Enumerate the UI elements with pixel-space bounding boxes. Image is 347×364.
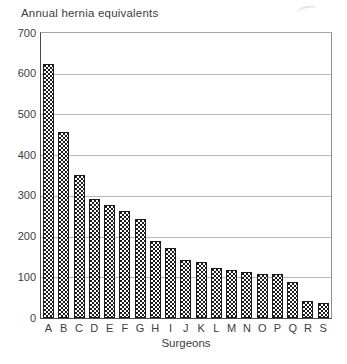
bar-J (180, 260, 191, 318)
x-tick-label-O: O (254, 322, 270, 335)
bar-C (74, 175, 85, 318)
x-tick-label-A: A (41, 322, 57, 335)
y-tick-label-500: 500 (4, 108, 36, 121)
x-tick-label-L: L (208, 322, 224, 335)
y-tick-label-200: 200 (4, 230, 36, 243)
x-tick-label-E: E (102, 322, 118, 335)
bar-I (165, 248, 176, 318)
x-tick-label-H: H (147, 322, 163, 335)
x-tick-label-P: P (269, 322, 285, 335)
bar-O (257, 274, 268, 318)
y-tick-label-100: 100 (4, 271, 36, 284)
x-tick-label-J: J (178, 322, 194, 335)
x-tick-label-D: D (86, 322, 102, 335)
x-tick-label-S: S (315, 322, 331, 335)
x-tick-label-M: M (224, 322, 240, 335)
bar-D (89, 199, 100, 318)
bar-F (119, 211, 130, 318)
bar-Q (287, 282, 298, 318)
bar-R (302, 301, 313, 318)
x-tick-label-K: K (193, 322, 209, 335)
y-tick-label-0: 0 (4, 312, 36, 325)
bar-N (241, 272, 252, 318)
bar-H (150, 241, 161, 318)
bar-K (196, 262, 207, 318)
bar-G (135, 219, 146, 318)
x-tick-label-I: I (163, 322, 179, 335)
x-tick-label-N: N (239, 322, 255, 335)
x-tick-label-F: F (117, 322, 133, 335)
x-axis-title: Surgeons (40, 337, 332, 349)
x-tick-label-R: R (300, 322, 316, 335)
y-tick-label-600: 600 (4, 67, 36, 80)
x-tick-label-Q: Q (285, 322, 301, 335)
chart-title: Annual hernia equivalents (21, 7, 158, 19)
y-tick-label-700: 700 (4, 27, 36, 40)
bar-L (211, 268, 222, 318)
y-tick-label-300: 300 (4, 189, 36, 202)
plot-area (40, 32, 332, 319)
hernia-bar-chart-figure: Annual hernia equivalents 01002003004005… (0, 0, 347, 364)
x-tick-label-C: C (71, 322, 87, 335)
y-tick-label-400: 400 (4, 149, 36, 162)
scan-artifact-mark (296, 4, 318, 19)
x-tick-label-G: G (132, 322, 148, 335)
gridline-600 (41, 74, 331, 75)
bar-S (318, 303, 329, 318)
gridline-400 (41, 155, 331, 156)
bar-M (226, 270, 237, 318)
gridline-500 (41, 114, 331, 115)
x-tick-label-B: B (56, 322, 72, 335)
bar-P (272, 274, 283, 318)
bar-A (43, 64, 54, 318)
bar-E (104, 205, 115, 318)
bar-B (58, 132, 69, 318)
